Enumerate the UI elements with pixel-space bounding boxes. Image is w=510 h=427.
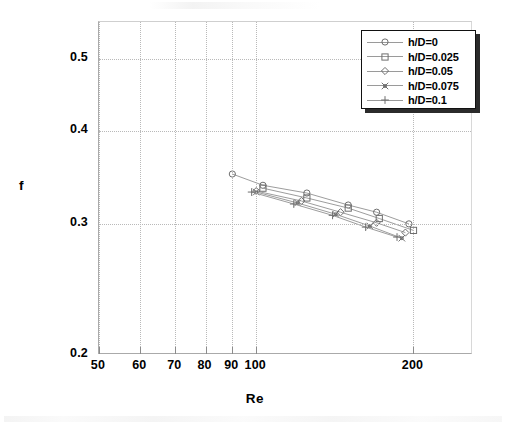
x-tick-label-200: 200 xyxy=(392,358,432,372)
legend-label: h/D=0.025 xyxy=(408,51,459,63)
legend-swatch-square-icon xyxy=(367,51,403,63)
legend-item-h-D-0-1[interactable]: h/D=0.1 xyxy=(367,93,470,107)
legend-swatch-diamond-icon xyxy=(367,65,403,77)
legend-label: h/D=0 xyxy=(408,36,438,48)
gridline-y-0.4 xyxy=(99,131,471,132)
legend-item-h-D-0[interactable]: h/D=0 xyxy=(367,35,470,49)
x-tick-label-100: 100 xyxy=(235,358,275,372)
gridline-x-50 xyxy=(99,22,100,353)
tick-x-70 xyxy=(175,347,176,354)
x-axis-label: Re xyxy=(0,391,510,406)
tick-x-90 xyxy=(232,347,233,354)
legend-label: h/D=0.075 xyxy=(408,80,459,92)
legend-label: h/D=0.05 xyxy=(408,65,453,77)
y-tick-label-0.3: 0.3 xyxy=(46,215,88,229)
tick-x-100 xyxy=(256,347,257,354)
legend-swatch-circle-icon xyxy=(367,36,403,48)
legend-swatch-cross-x-icon xyxy=(367,80,403,92)
marker-plus xyxy=(381,96,389,104)
series-line xyxy=(256,191,405,233)
series-h-D-0-05 xyxy=(253,188,409,237)
gridline-x-100 xyxy=(256,22,257,353)
legend-marker-diamond-icon xyxy=(378,64,392,78)
x-tick-label-50: 50 xyxy=(78,358,118,372)
tick-x-60 xyxy=(140,347,141,354)
y-tick-label-0.2: 0.2 xyxy=(46,346,88,360)
legend-item-h-D-0-075[interactable]: h/D=0.075 xyxy=(367,79,470,93)
legend-swatch-plus-icon xyxy=(367,94,403,106)
scan-artifact-top xyxy=(150,2,320,9)
marker-square xyxy=(382,53,388,59)
marker-cross-x xyxy=(382,82,389,89)
y-tick-label-0.5: 0.5 xyxy=(46,50,88,64)
scan-artifact-bottom xyxy=(4,416,502,422)
legend-marker-plus-icon xyxy=(378,93,392,107)
y-tick-label-0.4: 0.4 xyxy=(46,122,88,136)
legend-item-h-D-0-05[interactable]: h/D=0.05 xyxy=(367,64,470,78)
marker-cross-x xyxy=(399,235,406,242)
legend-marker-cross-x-icon xyxy=(378,79,392,93)
series-h-D-0-025 xyxy=(260,185,417,233)
gridline-x-90 xyxy=(232,22,233,353)
y-axis-label: f xyxy=(19,178,24,193)
marker-diamond xyxy=(381,67,388,74)
legend-item-h-D-0-025[interactable]: h/D=0.025 xyxy=(367,50,470,64)
figure-chart-friction-factor: f Re 5060708090100200 0.20.30.40.5 h/D=0… xyxy=(0,0,510,427)
marker-circle xyxy=(382,39,388,45)
legend-marker-square-icon xyxy=(378,50,392,64)
tick-x-200 xyxy=(413,347,414,354)
tick-x-50 xyxy=(99,347,100,354)
gridline-y-0.3 xyxy=(99,224,471,225)
chart-legend: h/D=0h/D=0.025h/D=0.05h/D=0.075h/D=0.1 xyxy=(361,30,476,109)
legend-marker-circle-icon xyxy=(378,35,392,49)
tick-x-80 xyxy=(206,347,207,354)
legend-label: h/D=0.1 xyxy=(408,94,447,106)
gridline-x-80 xyxy=(206,22,207,353)
gridline-x-60 xyxy=(140,22,141,353)
gridline-x-70 xyxy=(175,22,176,353)
